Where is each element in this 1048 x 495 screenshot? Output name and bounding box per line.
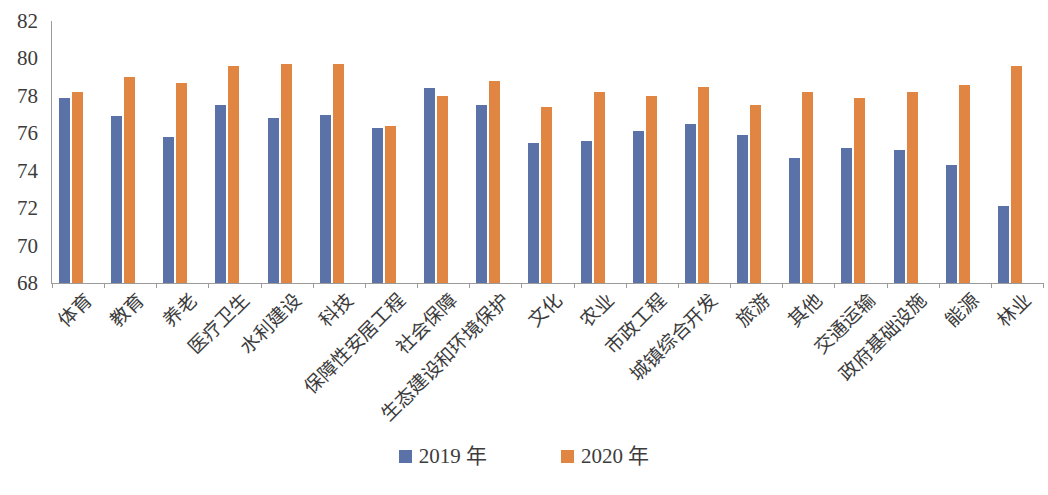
bar-0 [528,143,539,283]
bar-0 [215,105,226,283]
x-tick-mark [626,283,627,288]
x-tick-mark [834,283,835,288]
legend-swatch-icon [561,450,574,463]
legend-item[interactable]: 2020 年 [561,446,649,467]
x-tick-label-text: 养老 [159,289,201,331]
x-tick-label: 旅游 [733,290,774,331]
x-tick-mark [417,283,418,288]
legend-swatch-icon [399,450,412,463]
bar-group [313,21,365,283]
x-tick-mark [574,283,575,288]
bar-1 [281,64,292,283]
legend-item[interactable]: 2019 年 [399,446,487,467]
bar-1 [698,87,709,284]
bar-group [574,21,626,283]
bar-0 [685,124,696,283]
bar-0 [737,135,748,283]
x-tick-mark [991,283,992,288]
plot-area [52,21,1043,283]
bar-0 [476,105,487,283]
bar-0 [894,150,905,283]
bar-1 [959,85,970,283]
bar-0 [998,206,1009,283]
x-tick-mark [208,283,209,288]
x-tick-mark [469,283,470,288]
x-tick-label-text: 农业 [576,289,618,331]
bar-1 [907,92,918,283]
bar-1 [437,96,448,283]
bar-chart: 6870727476788082 体育教育养老医疗卫生水利建设科技保障性安居工程… [0,0,1048,495]
bar-0 [581,141,592,283]
x-tick-mark [887,283,888,288]
bar-0 [163,137,174,283]
x-tick-mark [261,283,262,288]
bar-group [365,21,417,283]
bar-0 [946,165,957,283]
x-tick-mark [678,283,679,288]
bar-group [156,21,208,283]
bar-0 [372,128,383,283]
x-tick-mark [156,283,157,288]
bar-1 [646,96,657,283]
bar-group [939,21,991,283]
x-tick-mark [1043,283,1044,288]
y-tick-label: 76 [17,123,38,144]
bar-group [469,21,521,283]
chart-legend: 2019 年2020 年 [0,446,1048,467]
x-tick-mark [52,283,53,288]
bar-1 [176,83,187,283]
x-axis: 体育教育养老医疗卫生水利建设科技保障性安居工程社会保障生态建设和环境保护文化农业… [0,288,1048,408]
bar-0 [841,148,852,283]
bar-group [887,21,939,283]
bar-group [208,21,260,283]
bar-1 [489,81,500,283]
bar-group [52,21,104,283]
bar-1 [594,92,605,283]
x-tick-label: 林业 [994,290,1035,331]
x-axis-line [51,283,1043,284]
bar-group [261,21,313,283]
x-tick-label-text: 能源 [941,289,983,331]
y-tick-label: 78 [17,85,38,106]
bar-0 [111,116,122,283]
bar-1 [385,126,396,283]
x-tick-label-text: 林业 [993,289,1035,331]
x-tick-label: 其他 [785,290,826,331]
x-tick-label-text: 其他 [785,289,827,331]
x-tick-label-text: 文化 [524,289,566,331]
bar-1 [854,98,865,283]
bar-1 [802,92,813,283]
x-tick-mark [939,283,940,288]
x-tick-mark [730,283,731,288]
bar-0 [633,131,644,283]
bar-group [521,21,573,283]
y-tick-label: 72 [17,198,38,219]
bar-1 [1011,66,1022,283]
y-tick-label: 82 [17,11,38,32]
bar-1 [541,107,552,283]
x-tick-mark [521,283,522,288]
bar-group [678,21,730,283]
bar-0 [59,98,70,283]
x-tick-label-text: 体育 [54,289,96,331]
legend-label: 2019 年 [419,446,487,467]
bar-group [834,21,886,283]
x-tick-mark [104,283,105,288]
bar-group [626,21,678,283]
x-tick-label-text: 教育 [107,289,149,331]
bar-group [782,21,834,283]
x-tick-label: 农业 [577,290,618,331]
y-tick-label: 80 [17,48,38,69]
x-tick-mark [313,283,314,288]
bar-group [417,21,469,283]
x-tick-label: 科技 [316,290,357,331]
bar-1 [750,105,761,283]
y-axis: 6870727476788082 [0,0,44,300]
x-tick-label-text: 旅游 [733,289,775,331]
bar-0 [268,118,279,283]
bar-0 [789,158,800,283]
y-tick-label: 70 [17,235,38,256]
x-tick-mark [782,283,783,288]
x-tick-label: 教育 [107,290,148,331]
bar-1 [333,64,344,283]
